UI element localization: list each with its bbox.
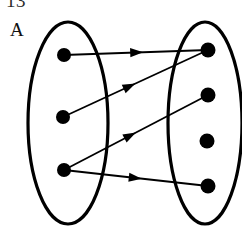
node-b2 [201, 88, 216, 103]
node-a1 [57, 48, 71, 62]
node-a3 [57, 163, 71, 177]
node-b4 [201, 179, 216, 194]
relation-diagram-svg [0, 0, 242, 228]
node-b3 [200, 134, 215, 149]
arrow-a3-b2-arrowhead-icon [122, 133, 136, 143]
set-mapping-figure: 13 A [0, 0, 242, 228]
arrow-a1-b1 [64, 48, 208, 57]
arrow-a1-b1-arrowhead-icon [130, 48, 143, 57]
node-layer [56, 43, 216, 194]
arrow-a2-b1-arrowhead-icon [122, 84, 136, 94]
node-b1 [201, 43, 216, 58]
arrow-a3-b4-arrowhead-icon [128, 173, 141, 182]
node-a2 [56, 110, 70, 124]
arrow-a3-b4 [64, 170, 208, 186]
arrow-layer [63, 48, 208, 186]
